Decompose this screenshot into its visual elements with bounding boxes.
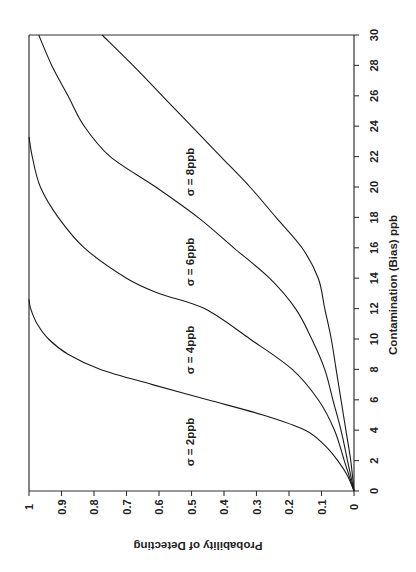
p-tick-label: 0.2 (283, 499, 295, 514)
p-tick-label: 0.7 (121, 499, 133, 514)
c-tick-label: 4 (368, 426, 380, 433)
series-label-sigma-8: σ = 8ppb (184, 148, 196, 196)
p-tick-label: 0.1 (316, 499, 328, 514)
c-tick-label: 8 (368, 366, 380, 372)
c-tick-label: 28 (368, 59, 380, 71)
c-tick-label: 14 (368, 271, 380, 284)
p-tick-label: 0.6 (153, 499, 165, 514)
probability-axis-ticks: 10.90.80.70.60.50.40.30.20.10 (23, 491, 360, 515)
c-tick-label: 10 (368, 333, 380, 345)
c-tick-label: 6 (368, 397, 380, 403)
p-tick-label: 0.5 (186, 499, 198, 514)
c-tick-label: 26 (368, 90, 380, 102)
sigma-8-curve (102, 35, 354, 491)
p-tick-label: 0.3 (251, 499, 263, 514)
detection-probability-chart: 024681012141618202224262830 10.90.80.70.… (0, 0, 416, 572)
series-label-sigma-2: σ = 2ppb (184, 418, 196, 466)
c-tick-label: 16 (368, 242, 380, 254)
c-tick-label: 2 (368, 458, 380, 464)
p-tick-label: 1 (23, 504, 35, 510)
sigma-6-curve (39, 35, 354, 491)
c-tick-label: 20 (368, 181, 380, 193)
c-tick-label: 18 (368, 211, 380, 223)
p-tick-label: 0.9 (56, 499, 68, 514)
c-tick-label: 24 (368, 119, 380, 132)
x-axis-title: Contamination (Bias) ppb (387, 215, 399, 355)
p-tick-label: 0 (348, 504, 360, 510)
p-tick-label: 0.8 (88, 499, 100, 514)
contamination-axis-ticks: 024681012141618202224262830 (354, 29, 380, 494)
p-tick-label: 0.4 (218, 498, 230, 514)
c-tick-label: 22 (368, 150, 380, 162)
y-axis-title: Probability of Detecting (133, 540, 262, 552)
c-tick-label: 12 (368, 302, 380, 314)
series-label-sigma-6: σ = 6ppb (184, 238, 196, 286)
c-tick-label: 30 (368, 29, 380, 41)
c-tick-label: 0 (368, 488, 380, 494)
series-label-sigma-4: σ = 4ppb (184, 326, 196, 374)
